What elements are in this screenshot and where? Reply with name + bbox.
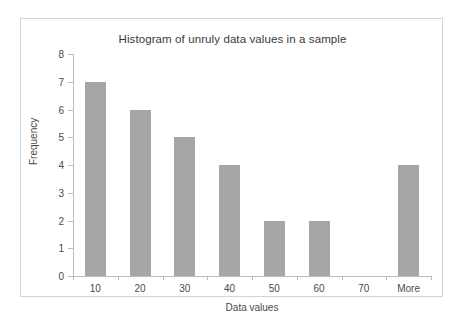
bar xyxy=(264,221,285,277)
x-axis-tick-label: 20 xyxy=(135,283,146,294)
y-axis-tick xyxy=(68,137,73,138)
x-axis-tick-label: More xyxy=(397,283,420,294)
x-axis-tick xyxy=(252,276,253,280)
y-axis-tick-label: 0 xyxy=(58,271,64,282)
x-axis-title: Data values xyxy=(73,302,431,313)
bar xyxy=(130,110,151,277)
y-axis-tick-label: 5 xyxy=(58,132,64,143)
x-axis-tick-label: 10 xyxy=(90,283,101,294)
bar xyxy=(174,137,195,276)
y-axis-tick-label: 7 xyxy=(58,76,64,87)
y-axis-tick-label: 2 xyxy=(58,215,64,226)
y-axis-tick xyxy=(68,110,73,111)
y-axis-title: Frequency xyxy=(28,118,39,165)
y-axis-tick-label: 3 xyxy=(58,187,64,198)
y-axis-tick-label: 1 xyxy=(58,243,64,254)
x-axis-tick xyxy=(73,276,74,280)
x-axis-tick xyxy=(342,276,343,280)
y-axis-tick xyxy=(68,54,73,55)
bar xyxy=(309,221,330,277)
x-axis-tick xyxy=(297,276,298,280)
x-axis-tick-label: 40 xyxy=(224,283,235,294)
x-axis-tick-label: 70 xyxy=(358,283,369,294)
y-axis-tick xyxy=(68,165,73,166)
y-axis-tick-label: 4 xyxy=(58,160,64,171)
y-axis-tick xyxy=(68,248,73,249)
y-axis-tick-label: 6 xyxy=(58,104,64,115)
y-axis-tick-label: 8 xyxy=(58,49,64,60)
x-axis-tick-label: 50 xyxy=(269,283,280,294)
x-axis-tick xyxy=(431,276,432,280)
bar xyxy=(85,82,106,276)
x-axis-tick xyxy=(386,276,387,280)
bar xyxy=(219,165,240,276)
x-axis-tick xyxy=(163,276,164,280)
x-axis-tick-label: 30 xyxy=(179,283,190,294)
x-axis-tick xyxy=(118,276,119,280)
x-axis-tick-label: 60 xyxy=(314,283,325,294)
chart-frame: Histogram of unruly data values in a sam… xyxy=(20,18,443,297)
chart-title: Histogram of unruly data values in a sam… xyxy=(21,33,444,45)
bar xyxy=(398,165,419,276)
y-axis-tick xyxy=(68,221,73,222)
y-axis-tick xyxy=(68,193,73,194)
plot-area: 01234567810203040506070More xyxy=(73,54,431,276)
x-axis-tick xyxy=(207,276,208,280)
y-axis-tick xyxy=(68,82,73,83)
